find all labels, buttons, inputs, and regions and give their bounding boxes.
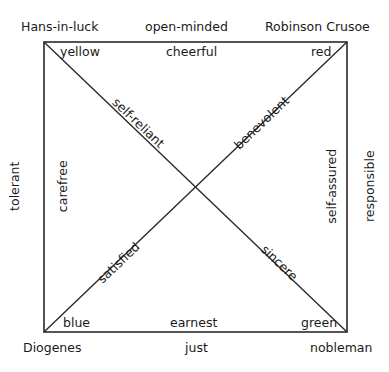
corner-label-bottom-left: Diogenes	[23, 342, 82, 355]
outer-side-top: open-minded	[145, 21, 228, 34]
inner-side-top: cheerful	[166, 46, 217, 59]
outer-side-left: tolerant	[9, 161, 22, 211]
corner-color-top-left: yellow	[60, 46, 100, 59]
corner-color-bottom-right: green	[301, 317, 337, 330]
outer-side-right: responsible	[364, 146, 377, 226]
corner-label-top-right: Robinson Crusoe	[265, 21, 370, 34]
inner-side-left: carefree	[57, 156, 70, 216]
corner-color-top-right: red	[311, 46, 332, 59]
corner-label-bottom-right: nobleman	[310, 342, 372, 355]
inner-side-bottom: earnest	[170, 317, 217, 330]
corner-label-top-left: Hans-in-luck	[21, 21, 98, 34]
outer-side-bottom: just	[185, 342, 208, 355]
inner-side-right: self-assured	[326, 146, 339, 226]
corner-color-bottom-left: blue	[63, 317, 90, 330]
